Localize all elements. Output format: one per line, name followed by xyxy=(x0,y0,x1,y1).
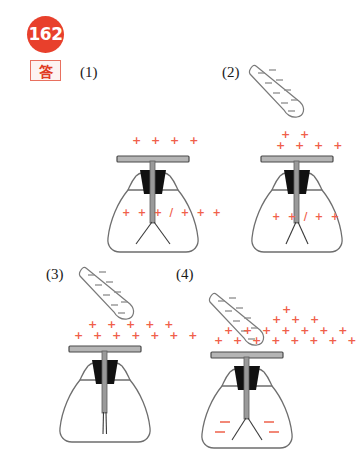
problem-number-badge: 162 xyxy=(27,16,64,53)
gold-leaf-left-3 xyxy=(103,412,104,434)
gold-leaf-right-3 xyxy=(106,412,107,434)
panel-3-charged-rod xyxy=(78,262,156,324)
flask-neck-right-3 xyxy=(122,366,130,380)
panel-3-electroscope xyxy=(40,338,170,448)
panel-2-electroscope xyxy=(232,148,362,258)
electroscope-1-drawing xyxy=(88,148,218,258)
panel-3-label: (3) xyxy=(46,266,64,283)
panel-1-label: (1) xyxy=(80,64,98,81)
flask-neck-left-4 xyxy=(222,372,230,386)
panel-4-label: (4) xyxy=(176,266,194,283)
rod-outline-2 xyxy=(250,65,304,117)
rod-outline-3 xyxy=(80,267,134,319)
metal-rod-3 xyxy=(102,351,107,413)
panel-2-charged-rod xyxy=(248,60,326,122)
panel-1-leaf-charges-left: + + + / + + + xyxy=(122,208,223,218)
panel-4-electroscope xyxy=(182,344,312,459)
flask-neck-right-2 xyxy=(314,176,322,190)
flask-neck-left-2 xyxy=(272,176,280,190)
charged-rod-2-drawing xyxy=(248,60,326,122)
electroscope-4-drawing xyxy=(182,344,312,459)
panel-1-electroscope xyxy=(88,148,218,258)
metal-rod-4 xyxy=(244,357,249,419)
flask-neck-left-1 xyxy=(128,176,136,190)
flask-neck-right-1 xyxy=(170,176,178,190)
charged-rod-3-drawing xyxy=(78,262,156,324)
panel-1-plate-charges-row-1: + + + + xyxy=(132,136,201,146)
electroscope-3-drawing xyxy=(40,338,170,448)
diagram-canvas: 162 答 (1) + + + + + + + / + + + (2) xyxy=(0,0,363,471)
answer-label-badge: 答 xyxy=(30,60,61,81)
panel-2-leaf-charges: + + / + + xyxy=(272,212,341,222)
flask-neck-right-4 xyxy=(264,372,272,386)
flask-neck-left-3 xyxy=(80,366,88,380)
panel-2-label: (2) xyxy=(222,64,240,81)
electroscope-2-drawing xyxy=(232,148,362,258)
